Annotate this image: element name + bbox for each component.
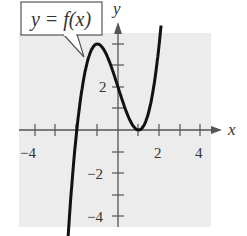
function-label-callout: y = f(x) [0,0,247,236]
function-label: y = f(x) [29,8,91,31]
